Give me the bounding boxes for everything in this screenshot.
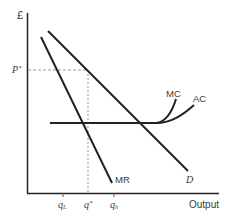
mr-label: MR xyxy=(115,174,130,185)
demand-label: D xyxy=(185,174,194,185)
monopoly-diagram: £ Output P* qL q* qh MC AC MR D xyxy=(0,0,232,220)
q-low-label: qL xyxy=(58,199,67,210)
mc-label: MC xyxy=(166,88,181,99)
q-high-label: qh xyxy=(110,199,118,210)
demand-curve xyxy=(48,31,188,171)
q-star-label: q* xyxy=(84,199,93,210)
y-axis-label: £ xyxy=(17,9,23,21)
x-axis-label: Output xyxy=(189,199,219,210)
ac-label: AC xyxy=(193,93,206,104)
p-star-label: P* xyxy=(11,64,22,75)
